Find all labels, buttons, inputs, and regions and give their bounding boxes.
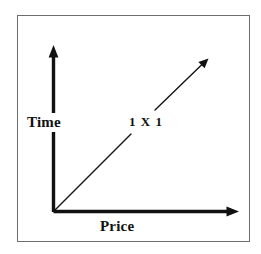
x-axis-arrowhead [227,206,240,216]
x-axis-group [54,206,240,216]
figure-root: Time 1 X 1 Price [0,0,261,254]
diagonal-trend-line-upper-segment [155,64,203,110]
y-axis-arrowhead [49,45,59,58]
ratio-annotation-label: 1 X 1 [126,113,166,130]
x-axis-label: Price [100,219,134,234]
y-axis-label: Time [26,113,63,132]
diagonal-trend-line-group [54,59,209,212]
diagonal-trend-line-lower-segment [54,134,131,211]
